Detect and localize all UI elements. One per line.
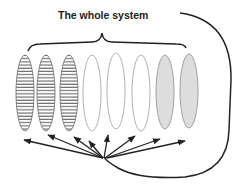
diagram-title: The whole system (58, 9, 148, 21)
element-5-empty (107, 53, 125, 129)
element-6-empty (132, 55, 150, 131)
arrows-group (24, 135, 185, 158)
arrow-5 (104, 135, 108, 158)
whole-system-diagram: The whole system (0, 0, 242, 184)
element-1-hatched (16, 55, 34, 131)
element-3-hatched (60, 55, 78, 131)
element-7-shaded (156, 55, 174, 129)
elements-group (16, 53, 198, 131)
element-2-hatched (37, 55, 55, 131)
element-8-shaded (180, 54, 198, 128)
brace (28, 33, 186, 51)
element-4-empty (83, 55, 101, 131)
